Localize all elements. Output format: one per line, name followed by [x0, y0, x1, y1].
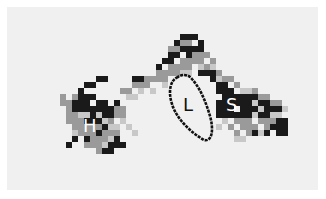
- region-label-s: S: [226, 96, 237, 114]
- loop-outline: [0, 0, 326, 199]
- figure: H L S: [0, 0, 326, 199]
- region-label-l: L: [183, 96, 193, 114]
- region-label-h: H: [83, 117, 97, 135]
